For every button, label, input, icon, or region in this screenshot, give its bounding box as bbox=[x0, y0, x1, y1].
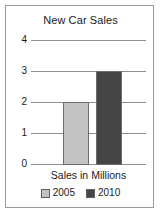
legend-label-2010: 2010 bbox=[98, 188, 120, 198]
legend-item-2005: 2005 bbox=[41, 188, 75, 198]
chart-container: New Car Sales 4 3 2 1 0 Sales in Million… bbox=[5, 5, 154, 208]
bar-2005 bbox=[63, 102, 89, 165]
y-axis-tick-2: 2 bbox=[14, 97, 27, 107]
y-axis-tick-0: 0 bbox=[14, 159, 27, 169]
legend-item-2010: 2010 bbox=[86, 188, 120, 198]
chart-legend: 2005 2010 bbox=[6, 188, 155, 198]
y-axis-tick-1: 1 bbox=[14, 128, 27, 138]
y-axis-tick-3: 3 bbox=[14, 66, 27, 76]
bar-2010 bbox=[96, 71, 122, 165]
legend-swatch-icon-2010 bbox=[86, 189, 95, 198]
x-axis-label: Sales in Millions bbox=[26, 169, 151, 181]
legend-label-2005: 2005 bbox=[53, 188, 75, 198]
legend-swatch-icon-2005 bbox=[41, 189, 50, 198]
gridline-3 bbox=[31, 71, 146, 72]
gridline-4 bbox=[31, 40, 146, 41]
y-axis-tick-4: 4 bbox=[14, 35, 27, 45]
